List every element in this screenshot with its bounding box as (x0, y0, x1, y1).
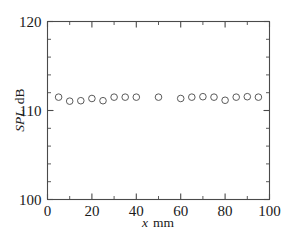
svg-text:SPLdB: SPLdB (12, 88, 27, 131)
data-point (189, 94, 196, 101)
chart-figure: 020406080100 100110120 xmm SPLdB (0, 0, 305, 235)
data-point (211, 94, 218, 101)
data-point (55, 94, 62, 101)
data-point-markers (55, 93, 261, 104)
x-tick-label: 0 (44, 203, 52, 219)
y-axis-minor-ticks (48, 39, 270, 181)
x-axis-title-symbol: x (141, 215, 148, 230)
data-point (89, 95, 96, 102)
x-tick-label: 20 (84, 203, 99, 219)
data-point (78, 97, 85, 104)
data-point (244, 93, 251, 100)
x-tick-label: 100 (258, 203, 281, 219)
x-axis-title: xmm (141, 215, 175, 230)
x-tick-label: 60 (173, 203, 188, 219)
data-point (222, 97, 229, 104)
x-tick-label: 80 (218, 203, 233, 219)
y-axis-title: SPLdB (12, 88, 27, 131)
data-point (200, 93, 207, 100)
x-axis-major-ticks (48, 22, 270, 200)
data-point (177, 95, 184, 102)
data-point (155, 94, 162, 101)
data-point (122, 94, 129, 101)
y-tick-label: 120 (19, 14, 42, 30)
x-axis-minor-ticks (70, 22, 248, 200)
x-axis-title-unit: mm (153, 215, 175, 230)
y-axis-major-ticks (48, 22, 270, 200)
y-axis-title-symbol: SPL (12, 109, 27, 132)
plot-frame (48, 22, 270, 200)
y-axis-title-unit: dB (12, 88, 27, 104)
svg-text:xmm: xmm (141, 215, 175, 230)
data-point (111, 94, 118, 101)
data-point (66, 98, 73, 105)
data-point (100, 97, 107, 104)
scatter-plot: 020406080100 100110120 xmm SPLdB (0, 0, 305, 235)
y-tick-label: 100 (19, 192, 42, 208)
data-point (255, 94, 262, 101)
data-point (233, 94, 240, 101)
data-point (133, 94, 140, 101)
